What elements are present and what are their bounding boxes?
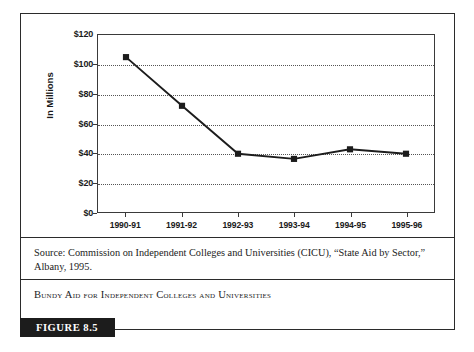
series-line xyxy=(126,57,406,159)
x-axis-tick-labels: 1990-911991-921992-931993-941994-951995-… xyxy=(97,220,435,234)
x-axis-tick-mark xyxy=(407,213,408,217)
data-series-line xyxy=(98,35,434,212)
data-point-marker xyxy=(347,146,353,152)
y-axis-tick-label: $0 xyxy=(53,208,93,218)
y-axis-tick-label: $120 xyxy=(53,29,93,39)
chart-area: In Millions $0$20$40$60$80$100$120 1990-… xyxy=(21,14,454,238)
data-point-marker xyxy=(123,54,129,60)
x-axis-tick-mark xyxy=(238,213,239,217)
data-point-marker xyxy=(291,156,297,162)
source-note-area: Source: Commission on Independent Colleg… xyxy=(21,238,454,280)
data-point-marker xyxy=(235,151,241,157)
figure-number-badge: FIGURE 8.5 xyxy=(20,318,115,337)
y-axis-tick-label: $100 xyxy=(53,59,93,69)
data-point-marker xyxy=(179,103,185,109)
x-axis-tick-marks xyxy=(97,213,435,218)
y-axis-tick-label: $80 xyxy=(53,89,93,99)
source-note: Source: Commission on Independent Colleg… xyxy=(34,246,442,273)
y-axis-tick-labels: $0$20$40$60$80$100$120 xyxy=(49,34,93,213)
x-axis-tick-mark xyxy=(182,213,183,217)
x-axis-tick-label: 1995-96 xyxy=(372,220,442,230)
x-axis-tick-mark xyxy=(294,213,295,217)
y-axis-tick-label: $20 xyxy=(53,178,93,188)
figure-container: In Millions $0$20$40$60$80$100$120 1990-… xyxy=(20,13,455,330)
data-point-marker xyxy=(403,151,409,157)
figure-caption: Bundy Aid for Independent Colleges and U… xyxy=(34,289,442,300)
plot-frame xyxy=(97,34,435,213)
y-axis-tick-label: $40 xyxy=(53,148,93,158)
x-axis-tick-mark xyxy=(351,213,352,217)
y-axis-tick-label: $60 xyxy=(53,119,93,129)
x-axis-tick-mark xyxy=(125,213,126,217)
